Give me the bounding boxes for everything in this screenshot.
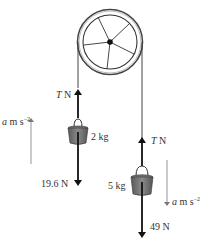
pulley-wheel [78, 10, 143, 75]
right-accel-label: a m s−2 [172, 196, 200, 207]
right-weight-label: 49 N [150, 222, 170, 232]
left-accel-label: a m s−2 [2, 116, 30, 127]
left-tension-label: T N [56, 90, 71, 100]
left-mass-label: 2 kg [91, 132, 109, 142]
right-mass-label: 5 kg [108, 181, 126, 191]
left-weight-label: 19.6 N [41, 179, 68, 189]
pulley-axle [107, 39, 113, 45]
right-tension-label: T N [151, 136, 166, 146]
pulley-diagram [0, 0, 219, 248]
